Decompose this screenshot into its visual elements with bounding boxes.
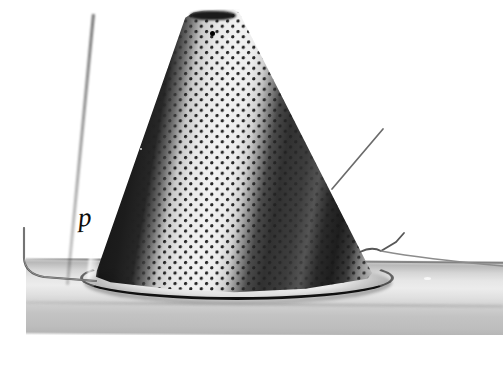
right-hook-wire	[360, 233, 404, 252]
annotation-label-p: p	[77, 204, 92, 232]
left-wire	[24, 228, 96, 281]
right-trailing-wire	[381, 251, 503, 266]
upper-right-wire	[332, 129, 383, 189]
photograph-figure: p	[0, 0, 503, 365]
wire-filaments	[0, 0, 503, 365]
left-wire-highlight	[24, 228, 96, 281]
